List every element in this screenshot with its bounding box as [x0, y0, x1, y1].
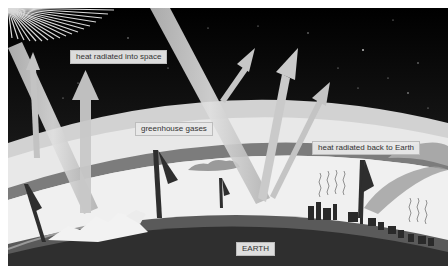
diagram-canvas — [8, 8, 448, 266]
label-earth: EARTH — [236, 242, 275, 256]
label-heat-back-to-earth: heat radiated back to Earth — [312, 141, 420, 155]
greenhouse-diagram: heat radiated into space greenhouse gase… — [8, 8, 448, 266]
label-heat-into-space: heat radiated into space — [70, 50, 167, 64]
label-greenhouse-gases: greenhouse gases — [135, 122, 213, 136]
